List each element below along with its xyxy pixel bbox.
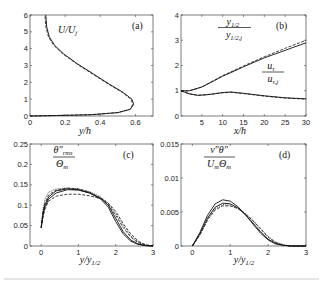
data-series xyxy=(192,203,306,246)
panel-c-annotation: θ″rms Θm xyxy=(53,144,75,170)
x-tick-label: 2 xyxy=(114,248,118,257)
x-tick-label: 0.6 xyxy=(130,118,140,127)
y-tick-label: 4 xyxy=(175,11,179,20)
svg-text:y1/2: y1/2 xyxy=(226,16,241,28)
panel-a-annotation: U/Uj xyxy=(58,24,77,37)
y-tick-label: 0.05 xyxy=(13,221,28,230)
panel-d-label: (d) xyxy=(279,150,290,161)
y-tick-label: 3 xyxy=(24,61,28,70)
panel-b: 5101520253001234 xyxy=(175,11,310,128)
y-tick-label: 1 xyxy=(175,86,179,95)
svg-text:Θm: Θm xyxy=(56,158,68,170)
x-tick-label: 5 xyxy=(200,118,204,127)
y-tick-label: 0.005 xyxy=(160,208,179,217)
y-tick-label: 4 xyxy=(24,44,28,53)
figure: 00.20.40.60123456 5101520253001234 01230… xyxy=(0,0,323,284)
y-tick-label: 2 xyxy=(24,78,28,87)
panel-c-xlabel: y/y1/2 xyxy=(79,254,101,267)
svg-text:uτ,j: uτ,j xyxy=(268,73,279,85)
panel-b-xlabel: x/h xyxy=(233,125,246,136)
panel-b-annotation-utau: uτ uτ,j xyxy=(262,60,284,85)
data-series xyxy=(30,15,134,116)
axes-frame xyxy=(181,15,306,116)
panel-b-annotation-y12: y1/2 y1/2,j xyxy=(218,16,251,41)
x-tick-label: 3 xyxy=(151,248,155,257)
y-tick-label: 0 xyxy=(175,112,179,121)
panel-d-annotation: v″θ″ UmΘm xyxy=(204,144,235,170)
y-tick-label: 0 xyxy=(175,242,179,251)
x-tick-label: 0 xyxy=(190,248,194,257)
y-tick-label: 0.25 xyxy=(13,140,28,149)
panel-d-xlabel: y/y1/2 xyxy=(233,254,255,267)
x-tick-label: 30 xyxy=(302,118,310,127)
svg-text:y1/2,j: y1/2,j xyxy=(225,29,242,41)
panel-a-xlabel: y/h xyxy=(78,125,91,136)
y-tick-label: 0.2 xyxy=(18,160,28,169)
y-tick-label: 2 xyxy=(175,61,179,70)
y-tick-label: 0.01 xyxy=(164,174,179,183)
svg-text:UmΘm: UmΘm xyxy=(207,158,231,170)
x-tick-label: 0.4 xyxy=(95,118,105,127)
x-tick-label: 10 xyxy=(218,118,226,127)
x-tick-label: 0.2 xyxy=(60,118,70,127)
x-tick-label: 3 xyxy=(304,248,308,257)
panel-b-label: (b) xyxy=(276,21,287,32)
svg-text:v″θ″: v″θ″ xyxy=(210,144,229,155)
panel-a-label: (a) xyxy=(132,21,143,32)
y-tick-label: 3 xyxy=(175,36,179,45)
x-tick-label: 20 xyxy=(260,118,268,127)
x-tick-label: 0 xyxy=(28,118,32,127)
y-tick-label: 1 xyxy=(24,95,28,104)
x-tick-label: 2 xyxy=(266,248,270,257)
svg-text:θ″rms: θ″rms xyxy=(54,144,73,156)
x-tick-label: 25 xyxy=(281,118,289,127)
x-tick-label: 0 xyxy=(39,248,43,257)
y-tick-label: 6 xyxy=(24,11,28,20)
caption-fragment xyxy=(4,278,319,280)
data-series xyxy=(192,205,306,247)
y-tick-label: 0 xyxy=(24,112,28,121)
panel-c: 012300.050.10.150.20.25 xyxy=(13,140,155,258)
data-series xyxy=(192,200,306,246)
y-tick-label: 0 xyxy=(24,242,28,251)
y-tick-label: 0.1 xyxy=(18,201,28,210)
panel-c-label: (c) xyxy=(123,150,134,161)
y-tick-label: 5 xyxy=(24,27,28,36)
y-tick-label: 0.015 xyxy=(160,140,179,149)
y-tick-label: 0.15 xyxy=(13,180,28,189)
svg-text:uτ: uτ xyxy=(267,60,275,72)
data-series xyxy=(41,194,153,246)
data-series xyxy=(30,15,133,116)
data-series xyxy=(181,43,306,91)
data-series xyxy=(181,40,306,91)
x-tick-label: 1 xyxy=(228,248,232,257)
